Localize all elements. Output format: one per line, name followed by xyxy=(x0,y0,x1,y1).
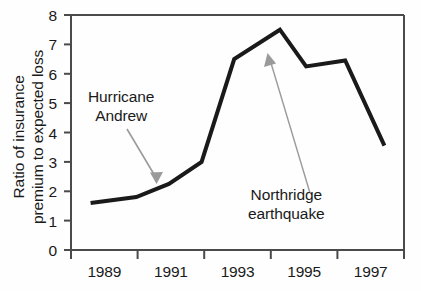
y-axis-ticks xyxy=(64,15,71,250)
x-axis-tick-labels: 1989 1991 1993 1995 1997 xyxy=(87,263,387,280)
annotation-northridge-line-1: Northridge xyxy=(248,186,325,205)
y-tick-label-0: 0 xyxy=(49,242,58,259)
x-tick-label-1991: 1991 xyxy=(154,263,188,280)
annotation-northridge-earthquake: Northridge earthquake xyxy=(248,186,325,224)
y-tick-label-2: 2 xyxy=(49,183,57,200)
x-axis-ticks xyxy=(71,250,404,259)
y-tick-label-7: 7 xyxy=(49,36,57,53)
annotation-hurricane-line-2: Andrew xyxy=(88,107,154,126)
y-tick-label-1: 1 xyxy=(49,213,57,230)
x-tick-label-1997: 1997 xyxy=(354,263,388,280)
y-tick-label-3: 3 xyxy=(49,154,57,171)
annotation-northridge-line-2: earthquake xyxy=(248,205,325,224)
annotation-hurricane-line-1: Hurricane xyxy=(88,88,154,107)
y-axis-tick-labels: 0 1 2 3 4 5 6 7 8 xyxy=(49,7,58,259)
hurricane-andrew-arrow xyxy=(127,129,163,184)
plot-axes xyxy=(71,15,404,250)
y-tick-label-5: 5 xyxy=(49,95,57,112)
y-tick-label-8: 8 xyxy=(49,7,57,24)
line-chart: 0 1 2 3 4 5 6 7 8 1989 1991 1993 1995 19… xyxy=(0,0,421,291)
annotation-hurricane-andrew: Hurricane Andrew xyxy=(88,88,154,126)
x-tick-label-1995: 1995 xyxy=(287,263,321,280)
y-tick-label-6: 6 xyxy=(49,66,57,83)
northridge-earthquake-arrow xyxy=(264,53,310,193)
x-tick-label-1989: 1989 xyxy=(87,263,121,280)
x-tick-label-1993: 1993 xyxy=(221,263,255,280)
y-tick-label-4: 4 xyxy=(49,125,58,142)
figure-container: Ratio of insurance premium to expected l… xyxy=(0,0,421,291)
